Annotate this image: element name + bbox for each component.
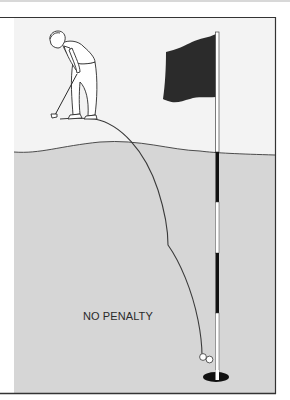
pole-stripe-light — [216, 313, 220, 378]
golf-ball — [206, 356, 213, 363]
pole-stripe-dark — [216, 152, 220, 202]
golfer-shoe — [84, 115, 97, 119]
flagstick — [216, 32, 220, 378]
golf-ball — [200, 354, 207, 361]
pole-upper — [216, 32, 220, 152]
putter-head — [51, 114, 57, 118]
pole-stripe-dark — [216, 253, 220, 313]
putting-green — [14, 141, 275, 393]
golf-rule-illustration — [0, 0, 290, 400]
golfer-shoe — [68, 114, 82, 119]
rule-caption: NO PENALTY — [83, 310, 153, 322]
pole-stripe-light — [216, 202, 220, 253]
pole-in-hole — [216, 370, 220, 380]
